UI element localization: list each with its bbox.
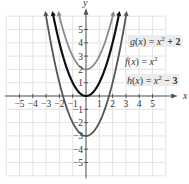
legend-g-fn: g <box>130 36 135 47</box>
y-tick-label: 3 <box>78 52 83 62</box>
x-tick-label: −3 <box>41 99 51 109</box>
legend-h: h(x) = x2 − 3 <box>125 74 179 86</box>
x-axis-arrow-icon <box>171 94 178 99</box>
legend-f-fn: f <box>125 56 128 67</box>
y-axis-arrow-icon <box>84 8 89 15</box>
x-tick-label: 2 <box>110 99 115 109</box>
x-tick-label: −4 <box>28 99 38 109</box>
arrowhead-icon <box>43 11 48 16</box>
y-tick-label: −4 <box>73 145 83 155</box>
x-tick-label: 5 <box>150 99 155 109</box>
y-tick-label: 1 <box>78 78 83 88</box>
function-graph: xy −5−4−3−2−112345−5−4−3−2−112345 <box>0 0 189 184</box>
legend-f-arg: x <box>131 56 135 67</box>
legend-h-fn: h <box>127 75 132 86</box>
x-axis-label: x <box>182 90 188 101</box>
x-tick-label: −2 <box>54 99 64 109</box>
x-tick-label: 3 <box>124 99 129 109</box>
y-tick-label: 2 <box>78 65 83 75</box>
y-tick-label: −5 <box>73 158 83 168</box>
x-tick-label: 1 <box>97 99 102 109</box>
y-tick-label: 5 <box>78 25 83 35</box>
arrowhead-icon <box>51 11 56 16</box>
arrowhead-icon <box>57 11 62 16</box>
x-tick-label: −5 <box>14 99 24 109</box>
y-tick-label: 4 <box>78 38 83 48</box>
legend-g: g(x) = x2 + 2 <box>128 35 182 47</box>
arrowhead-icon <box>110 11 115 16</box>
y-axis-label: y <box>82 0 88 8</box>
y-tick-label: −1 <box>73 105 83 115</box>
legend-f: f(x) = x2 <box>123 55 160 67</box>
legend-g-arg: x <box>138 36 142 47</box>
x-tick-label: 4 <box>137 99 142 109</box>
legend-h-arg: x <box>135 75 139 86</box>
y-tick-label: −3 <box>73 131 83 141</box>
arrowhead-icon <box>116 11 121 16</box>
arrowhead-icon <box>123 11 128 16</box>
legend-h-rhs: − 3 <box>162 75 178 86</box>
legend-g-rhs: + 2 <box>165 36 181 47</box>
y-tick-label: −2 <box>73 118 83 128</box>
